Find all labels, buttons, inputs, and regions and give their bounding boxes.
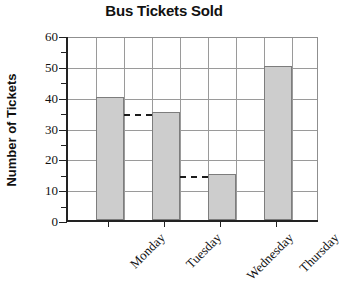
x-axis-tick [108,222,109,227]
x-axis-tick-label: Tuesday [183,230,225,272]
x-axis-tick-label: Wednesday [243,230,296,283]
x-axis-tick [220,222,221,227]
x-axis-tick-label: Thursday [296,230,342,276]
x-axis-tick-label: Monday [127,230,169,272]
x-axis-tick [276,222,277,227]
x-axis-tick [164,222,165,227]
